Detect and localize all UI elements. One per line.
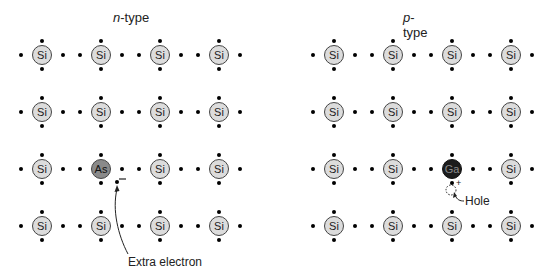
svg-text:+: +	[456, 178, 461, 188]
annotation-arrows: +	[0, 0, 549, 270]
extra-electron-label: Extra electron	[128, 255, 202, 269]
hole-label: Hole	[465, 194, 490, 208]
